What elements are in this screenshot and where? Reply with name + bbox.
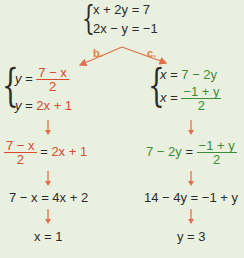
left-step1: 7 − x 2 = 2x + 1 (4, 139, 87, 166)
right-step1-lhs: 7 − 2y (146, 144, 182, 159)
equals: = (37, 144, 52, 159)
equals: = (182, 144, 197, 159)
right-result: y = 3 (177, 229, 206, 244)
left-step1-rhs: 2x + 1 (51, 144, 87, 159)
right-step1-frac: −1 + y 2 (197, 139, 237, 166)
right-step2: 14 − 4y = −1 + y (144, 190, 238, 205)
right-step1: 7 − 2y = −1 + y 2 (146, 139, 237, 166)
left-step2: 7 − x = 4x + 2 (9, 190, 88, 205)
denominator: 2 (4, 153, 37, 166)
denominator: 2 (197, 153, 237, 166)
numerator: −1 + y (197, 139, 237, 153)
left-result: x = 1 (34, 229, 63, 244)
left-step1-frac: 7 − x 2 (4, 139, 37, 166)
down-arrows (0, 0, 244, 258)
numerator: 7 − x (4, 139, 37, 153)
